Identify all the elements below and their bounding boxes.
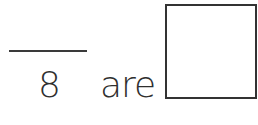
are-word: are	[100, 67, 155, 103]
fraction-denominator: 8	[38, 67, 61, 103]
answer-box[interactable]	[165, 4, 257, 99]
fraction-line	[9, 50, 87, 52]
